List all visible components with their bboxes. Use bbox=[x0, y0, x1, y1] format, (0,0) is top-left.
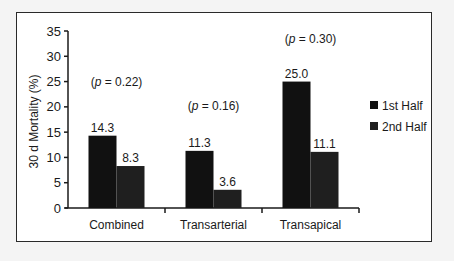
category-label: Combined bbox=[89, 218, 144, 232]
bar-transarterial-2nd-half bbox=[214, 190, 242, 208]
legend-swatch-2nd-half bbox=[370, 122, 378, 130]
y-tick-label: 25 bbox=[47, 74, 61, 89]
bar-combined-1st-half bbox=[89, 136, 117, 208]
y-tick-label: 5 bbox=[54, 175, 61, 190]
p-value-annotation: (p = 0.30) bbox=[285, 32, 337, 46]
y-tick-label: 20 bbox=[47, 99, 61, 114]
bar-transapical-2nd-half bbox=[311, 152, 339, 208]
value-label: 11.3 bbox=[188, 136, 211, 150]
value-label: 8.3 bbox=[122, 151, 139, 165]
y-tick-label: 35 bbox=[47, 24, 61, 39]
p-value-annotation: (p = 0.16) bbox=[188, 99, 240, 113]
value-label: 14.3 bbox=[91, 121, 115, 135]
value-label: 25.0 bbox=[285, 67, 309, 81]
bar-combined-2nd-half bbox=[117, 166, 145, 208]
y-tick-label: 30 bbox=[47, 49, 61, 64]
category-label: Transapical bbox=[280, 218, 342, 232]
legend-label: 1st Half bbox=[382, 99, 423, 113]
legend: 1st Half2nd Half bbox=[370, 99, 427, 134]
legend-label: 2nd Half bbox=[382, 120, 427, 134]
bar-chart: 0510152025303530 d Mortality (%) 14.38.3… bbox=[0, 0, 454, 261]
p-value-annotation: (p = 0.22) bbox=[91, 75, 143, 89]
y-tick-label: 10 bbox=[47, 150, 61, 165]
legend-swatch-1st-half bbox=[370, 101, 378, 109]
value-label: 3.6 bbox=[219, 175, 236, 189]
y-tick-label: 0 bbox=[54, 201, 61, 216]
value-label: 11.1 bbox=[313, 137, 336, 151]
bar-transarterial-1st-half bbox=[186, 151, 214, 208]
category-label: Transarterial bbox=[180, 218, 247, 232]
y-axis-label: 30 d Mortality (%) bbox=[27, 74, 41, 168]
bar-transapical-1st-half bbox=[283, 82, 311, 208]
y-tick-label: 15 bbox=[47, 125, 61, 140]
